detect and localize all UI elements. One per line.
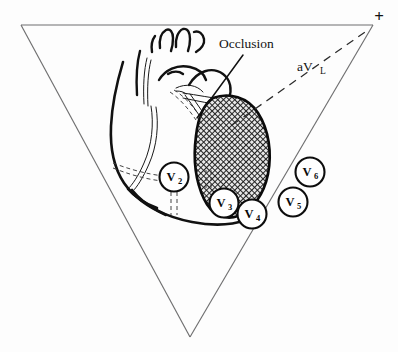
apex-contour [128,189,157,208]
lead-marker-v4[interactable]: V 4 [238,200,267,229]
avl-label-group: aV L [297,59,326,76]
left-carotid-vessel [160,29,173,51]
lead-marker-v3[interactable]: V 3 [210,189,239,218]
ascending-aorta-inner-line-b [148,60,151,106]
avl-label-base: aV [297,59,313,74]
avl-label-subscript: L [320,66,326,76]
lead-marker-v6[interactable]: V 6 [296,158,325,187]
ascending-aorta-inner-line-a [144,58,147,104]
lead-v2-subscript: 2 [178,176,182,186]
vessel-arch-tip [194,31,204,52]
lead-v5-subscript: 5 [297,201,301,211]
great-vessels-group [152,29,205,52]
right-heart-border [111,62,166,215]
lead-marker-v5[interactable]: V 5 [279,188,308,217]
lead-v2-base: V [166,170,175,184]
lead-v5-base: V [285,195,294,209]
pulmonary-trunk-curve [189,70,231,98]
ascending-aorta-left-wall [137,51,140,95]
lead-v3-subscript: 3 [228,202,232,212]
cardiac-occlusion-figure: Occlusion aV L + V 2 V 3 V 4 [0,0,398,352]
aortic-arch-inner-curve [168,72,183,74]
occlusion-label: Occlusion [219,36,274,51]
lead-v4-base: V [244,207,253,221]
left-subclavian-vessel [176,29,190,51]
diagram-canvas: Occlusion aV L + V 2 V 3 V 4 [0,0,398,352]
lead-v3-base: V [216,196,225,210]
lead-v6-subscript: 6 [314,171,318,181]
brachiocephalic-vessel [152,36,155,52]
polarity-plus-marker: + [374,7,384,26]
lead-v6-base: V [302,165,311,179]
lead-marker-v2[interactable]: V 2 [160,163,189,192]
